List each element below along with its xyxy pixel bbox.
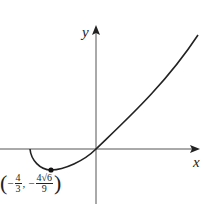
y-numerator: 4√6 bbox=[36, 173, 54, 184]
y-sign: − bbox=[28, 177, 34, 189]
separator: , bbox=[23, 177, 26, 189]
y-fraction: 4√6 9 bbox=[36, 173, 54, 194]
x-denominator: 3 bbox=[16, 184, 21, 194]
close-paren: ) bbox=[54, 172, 61, 194]
x-axis-label: x bbox=[193, 155, 200, 170]
y-axis-label: y bbox=[82, 25, 89, 40]
minimum-point-label: ( − 4 3 , − 4√6 9 ) bbox=[0, 172, 61, 194]
x-fraction: 4 3 bbox=[15, 173, 22, 194]
open-paren: ( bbox=[0, 172, 7, 194]
x-sign: − bbox=[7, 177, 13, 189]
y-denominator: 9 bbox=[42, 184, 47, 194]
function-curve bbox=[30, 35, 198, 170]
x-numerator: 4 bbox=[15, 173, 22, 184]
